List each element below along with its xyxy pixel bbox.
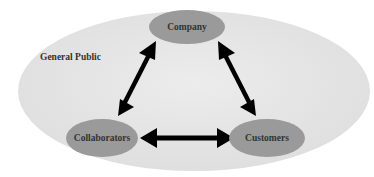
node-company-label: Company [167,22,207,32]
node-customers-label: Customers [245,133,289,143]
general-public-label: General Public [40,52,101,62]
node-collaborators: Collaborators [66,119,138,157]
node-customers: Customers [229,119,305,157]
node-collaborators-label: Collaborators [74,133,131,143]
node-company: Company [149,10,225,44]
stakeholder-diagram: General Public Company Collaborators Cus… [0,0,374,177]
